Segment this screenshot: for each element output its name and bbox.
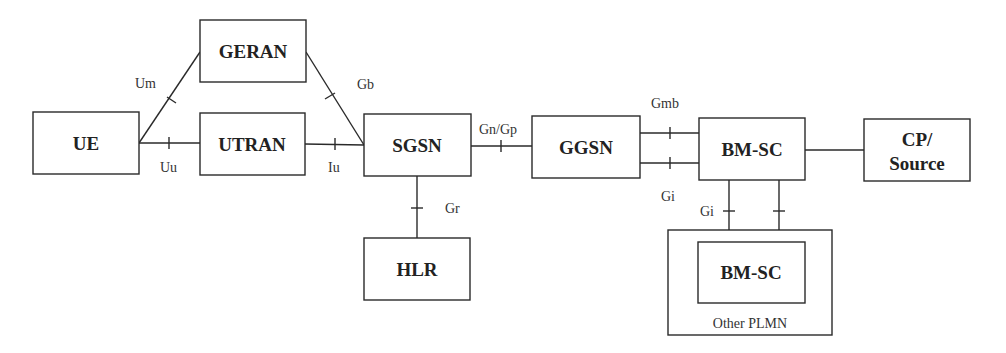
node-bmsc-other-plmn: BM-SC [698,242,805,303]
bmsc-other-label: BM-SC [720,262,781,283]
link-ue-geran [139,52,200,143]
interface-label-gi-other: Gi [700,204,714,219]
interface-label-gb: Gb [357,77,374,92]
utran-label: UTRAN [218,134,286,155]
ue-label: UE [73,133,99,154]
interface-label-gmb: Gmb [651,96,679,111]
interface-label-gi-ggsn: Gi [661,189,675,204]
ggsn-label: GGSN [559,137,613,158]
cp-source-label-line1: CP/ [902,129,933,150]
interface-label-uu: Uu [160,160,177,175]
node-ggsn: GGSN [532,116,640,178]
interface-label-iu: Iu [328,160,340,175]
bmsc-label: BM-SC [721,139,782,160]
hlr-label: HLR [396,259,437,280]
interface-label-um: Um [135,76,156,91]
interface-label-gr: Gr [445,201,460,216]
sgsn-label: SGSN [392,135,442,156]
cp-source-label-line2: Source [889,153,945,174]
node-sgsn: SGSN [364,114,471,176]
node-cp-source: CP/ Source [864,119,970,181]
geran-label: GERAN [219,41,288,62]
node-ue: UE [33,112,139,174]
link-geran-sgsn [306,52,364,145]
mbms-architecture-diagram: Other PLMN UE GERAN UTRAN SGSN HLR GGSN … [0,0,1006,353]
node-hlr: HLR [364,238,470,300]
node-bmsc: BM-SC [699,118,805,180]
interface-label-gn-gp: Gn/Gp [479,122,517,137]
node-utran: UTRAN [200,113,305,175]
node-geran: GERAN [200,20,306,82]
other-plmn-label: Other PLMN [713,316,787,331]
